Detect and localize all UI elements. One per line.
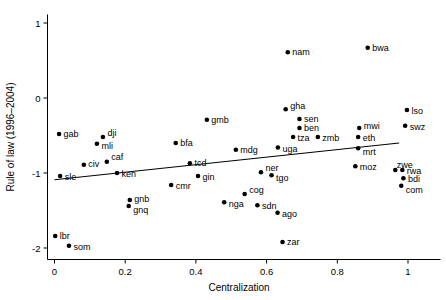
data-point-label-gmb: gmb: [211, 115, 229, 125]
data-point-mwi: [357, 126, 362, 131]
y-tick-label: -2: [32, 243, 40, 254]
data-point-label-gnq: gnq: [133, 205, 148, 215]
data-point-cmr: [169, 183, 174, 188]
x-tick-label: 0.2: [119, 266, 132, 277]
data-point-mrt: [356, 146, 361, 151]
data-point-label-bdi: bdi: [408, 174, 420, 184]
data-point-moz: [353, 164, 358, 169]
data-point-label-civ: civ: [88, 159, 99, 169]
data-point-label-gnb: gnb: [134, 194, 149, 204]
data-point-label-dji: dji: [107, 128, 116, 138]
data-point-label-zar: zar: [287, 237, 300, 247]
data-point-sdn: [255, 203, 260, 208]
x-axis-title: Centralization: [208, 282, 269, 293]
data-point-ner: [259, 170, 264, 175]
data-point-nga: [222, 200, 227, 205]
data-point-label-ken: ken: [122, 169, 137, 179]
data-point-label-gab: gab: [64, 129, 79, 139]
data-point-label-nga: nga: [229, 199, 244, 209]
data-point-zmb: [316, 135, 321, 140]
data-point-civ: [82, 162, 87, 167]
data-point-gha: [283, 107, 288, 112]
data-point-label-uga: uga: [282, 144, 297, 154]
y-tick-label: 1: [35, 18, 40, 29]
data-point-label-cmr: cmr: [176, 181, 191, 191]
y-tick-label: -1: [32, 168, 40, 179]
scatter-plot-figure: 10-1-200.20.40.60.81CentralizationRule o…: [0, 0, 446, 300]
data-point-label-gin: gin: [203, 172, 215, 182]
data-point-zar: [280, 240, 285, 245]
data-point-eth: [356, 135, 361, 140]
y-tick-label: 0: [35, 93, 40, 104]
x-tick-label: 0.6: [260, 266, 273, 277]
scatter-plot-canvas: 10-1-200.20.40.60.81CentralizationRule o…: [0, 0, 446, 300]
data-point-caf: [105, 159, 110, 164]
data-point-bwa: [365, 45, 370, 50]
data-point-gnb: [127, 198, 132, 203]
data-point-label-mli: mli: [101, 141, 113, 151]
data-point-ken: [115, 171, 120, 176]
data-point-com: [399, 183, 404, 188]
data-point-label-som: som: [73, 242, 90, 252]
data-point-mdg: [234, 147, 239, 152]
data-point-dji: [101, 135, 106, 140]
data-point-label-zmb: zmb: [322, 133, 339, 143]
data-point-tcd: [188, 161, 193, 166]
data-point-bdi: [401, 176, 406, 181]
data-point-label-sle: sle: [65, 172, 77, 182]
data-point-lso: [405, 108, 410, 113]
data-point-label-mrt: mrt: [363, 147, 376, 157]
data-point-label-bwa: bwa: [372, 43, 389, 53]
data-point-label-ner: ner: [265, 163, 278, 173]
data-point-sle: [58, 174, 63, 179]
data-point-label-eth: eth: [363, 133, 376, 143]
data-point-label-moz: moz: [360, 162, 378, 172]
data-point-label-gha: gha: [290, 101, 305, 111]
data-point-label-lbr: lbr: [60, 231, 70, 241]
data-point-label-ben: ben: [304, 123, 319, 133]
data-point-cog: [242, 192, 247, 197]
data-point-ben: [297, 126, 302, 131]
data-point-uga: [276, 145, 281, 150]
y-axis-title: Rule of law (1996–2004): [5, 83, 16, 192]
data-point-label-sdn: sdn: [262, 201, 277, 211]
data-point-rwa: [400, 168, 405, 173]
data-point-ago: [275, 210, 280, 215]
data-point-sen: [297, 117, 302, 122]
data-point-bfa: [173, 141, 178, 146]
data-point-gnq: [126, 204, 131, 209]
x-tick-label: 0.4: [189, 266, 202, 277]
data-point-label-lso: lso: [411, 106, 423, 116]
data-point-lbr: [53, 234, 58, 239]
data-point-label-bfa: bfa: [180, 138, 193, 148]
data-point-label-mdg: mdg: [240, 145, 258, 155]
data-point-gmb: [205, 117, 210, 122]
data-point-tza: [291, 135, 296, 140]
data-point-label-cog: cog: [249, 185, 264, 195]
data-point-label-ago: ago: [282, 209, 297, 219]
x-tick-label: 0.8: [331, 266, 344, 277]
data-point-gab: [57, 132, 62, 137]
x-tick-label: 1: [405, 266, 410, 277]
data-point-label-mwi: mwi: [364, 121, 380, 131]
data-point-label-nam: nam: [292, 47, 310, 57]
data-point-mli: [95, 141, 100, 146]
data-point-label-com: com: [406, 185, 423, 195]
data-point-label-tgo: tgo: [276, 173, 289, 183]
data-point-tgo: [269, 173, 274, 178]
x-tick-label: 0: [52, 266, 57, 277]
data-point-label-tcd: tcd: [194, 158, 206, 168]
data-point-label-swz: swz: [410, 122, 426, 132]
data-point-gin: [196, 174, 201, 179]
data-point-swz: [403, 123, 408, 128]
data-point-label-tza: tza: [298, 133, 310, 143]
data-point-som: [67, 243, 72, 248]
data-point-nam: [286, 50, 291, 55]
data-point-label-caf: caf: [111, 152, 124, 162]
